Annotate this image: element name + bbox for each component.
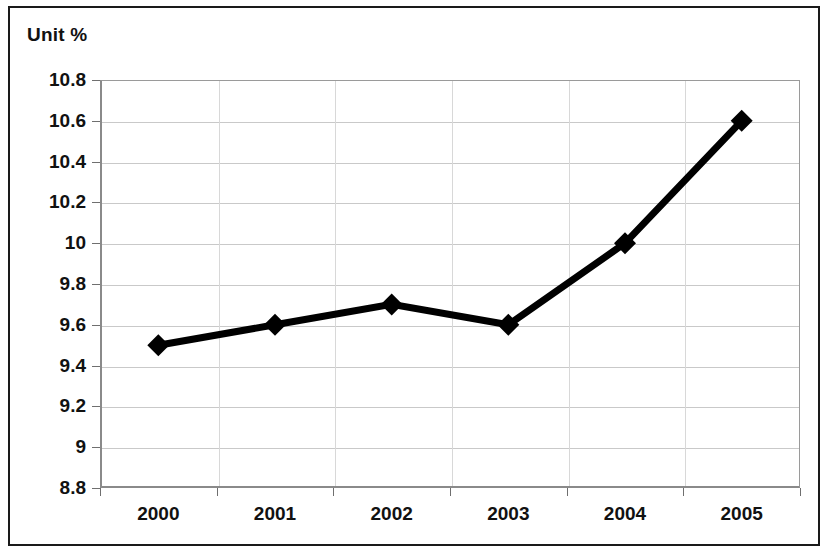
x-axis-tick-label: 2004 <box>604 503 646 525</box>
x-axis-tick-label: 2005 <box>721 503 763 525</box>
y-axis-tick-label: 8.8 <box>60 477 86 499</box>
x-axis-tick <box>800 488 801 496</box>
gridline-vertical <box>335 81 336 486</box>
gridline-horizontal <box>102 407 799 408</box>
y-axis-tick-label: 10.2 <box>49 191 86 213</box>
y-axis-tick-label: 9 <box>75 436 86 458</box>
gridline-horizontal <box>102 244 799 245</box>
chart-figure: Unit % 10.810.610.410.2109.89.69.49.298.… <box>0 0 829 559</box>
y-axis-tick-label: 9.2 <box>60 395 86 417</box>
y-axis-tick <box>92 366 100 367</box>
x-axis-tick-label: 2003 <box>487 503 529 525</box>
y-axis-tick-label: 9.8 <box>60 273 86 295</box>
y-axis-tick-label: 10 <box>65 232 86 254</box>
x-axis-tick <box>683 488 684 496</box>
gridline-horizontal <box>102 163 799 164</box>
gridline-vertical <box>685 81 686 486</box>
x-axis-tick-label: 2000 <box>137 503 179 525</box>
x-axis-tick-label: 2001 <box>254 503 296 525</box>
y-axis-tick <box>92 202 100 203</box>
x-axis-tick <box>333 488 334 496</box>
y-axis-tick <box>92 488 100 489</box>
x-axis-tick-label: 2002 <box>371 503 413 525</box>
gridline-horizontal <box>102 203 799 204</box>
y-axis-tick <box>92 325 100 326</box>
y-axis-tick-label: 9.4 <box>60 355 86 377</box>
plot-area <box>100 80 800 488</box>
gridline-horizontal <box>102 448 799 449</box>
gridline-horizontal <box>102 367 799 368</box>
gridline-vertical <box>219 81 220 486</box>
y-axis-tick-label: 10.6 <box>49 110 86 132</box>
y-axis-tick <box>92 406 100 407</box>
y-axis-tick <box>92 447 100 448</box>
y-axis-tick-label: 10.8 <box>49 69 86 91</box>
y-axis-tick-label: 9.6 <box>60 314 86 336</box>
gridline-vertical <box>452 81 453 486</box>
gridline-vertical <box>569 81 570 486</box>
gridline-horizontal <box>102 122 799 123</box>
gridline-horizontal <box>102 285 799 286</box>
x-axis-tick <box>100 488 101 496</box>
y-axis-tick <box>92 243 100 244</box>
y-axis-tick <box>92 162 100 163</box>
x-axis-tick <box>450 488 451 496</box>
y-axis-tick <box>92 80 100 81</box>
y-axis-tick <box>92 284 100 285</box>
y-axis-label-group: 10.810.610.410.2109.89.69.49.298.8 <box>0 0 86 559</box>
x-axis-tick <box>217 488 218 496</box>
x-axis-tick <box>567 488 568 496</box>
gridline-horizontal <box>102 326 799 327</box>
y-axis-tick <box>92 121 100 122</box>
y-axis-tick-label: 10.4 <box>49 151 86 173</box>
